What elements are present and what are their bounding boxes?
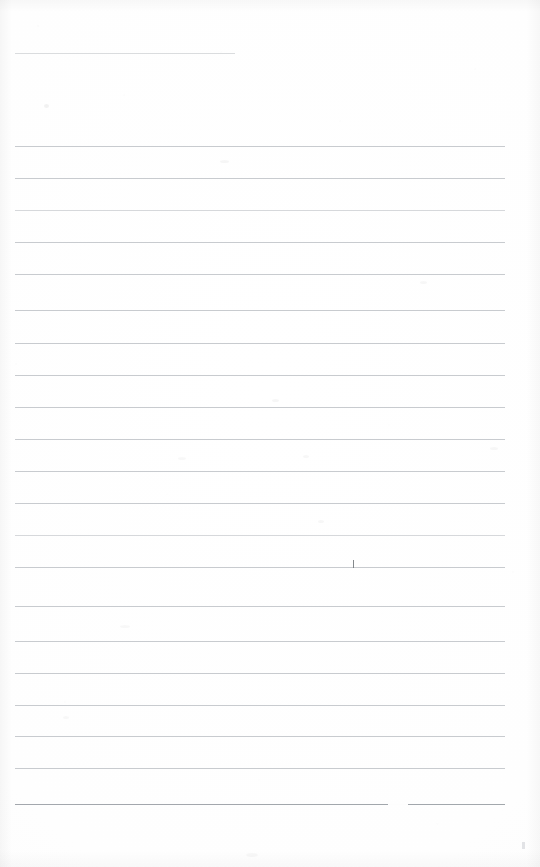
rule-line-3	[15, 178, 505, 179]
rule-line-6	[15, 274, 505, 275]
page-edge-shadow-left	[0, 0, 12, 867]
rule-line-12	[15, 471, 505, 472]
rule-line-2	[15, 146, 505, 147]
page-edge-shadow-top	[0, 0, 540, 12]
paper-smudge-5	[178, 457, 186, 460]
rule-line-15	[15, 567, 505, 568]
rule-line-16	[15, 606, 505, 607]
scanned-page	[0, 0, 540, 867]
rule-line-17	[15, 641, 505, 642]
rule-line-4	[15, 210, 505, 211]
rule-line-20	[15, 736, 505, 737]
corner-smudge-mark	[522, 842, 525, 849]
rule-line-8	[15, 343, 505, 344]
rule-line-22	[15, 804, 505, 805]
paper-smudge-4	[303, 455, 309, 458]
rule-line-19	[15, 705, 505, 706]
pen-tick-mark	[353, 560, 354, 568]
paper-smudge-8	[420, 281, 427, 284]
rule-line-18	[15, 673, 505, 674]
rule-line-11	[15, 439, 505, 440]
paper-smudge-2	[220, 160, 229, 163]
paper-smudge-1	[44, 104, 49, 108]
rule-line-10	[15, 407, 505, 408]
rule-line-gap	[388, 804, 408, 805]
rule-line-9	[15, 375, 505, 376]
rule-line-7	[15, 310, 505, 311]
rule-line-1	[15, 53, 235, 54]
paper-smudge-7	[120, 625, 130, 628]
rule-line-5	[15, 242, 505, 243]
paper-smudge-3	[272, 399, 279, 402]
rule-line-21	[15, 768, 505, 769]
page-edge-shadow-right	[526, 0, 540, 867]
paper-smudge-6	[318, 520, 324, 523]
page-edge-shadow-bottom	[0, 851, 540, 867]
paper-smudge-11	[246, 853, 258, 857]
rule-line-14	[15, 535, 505, 536]
paper-smudge-10	[63, 716, 69, 719]
rule-line-13	[15, 503, 505, 504]
paper-smudge-9	[490, 447, 498, 450]
